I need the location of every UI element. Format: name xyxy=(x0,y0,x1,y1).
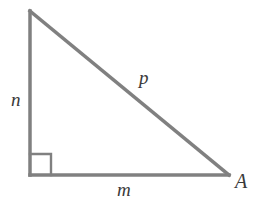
triangle-drawing xyxy=(0,0,265,210)
label-horizontal-leg: m xyxy=(117,180,131,199)
triangle-figure: n p m A xyxy=(0,0,265,210)
label-vertical-leg: n xyxy=(11,90,21,109)
figure-background xyxy=(0,0,265,210)
label-hypotenuse: p xyxy=(139,68,149,87)
label-vertex-a: A xyxy=(235,171,247,191)
